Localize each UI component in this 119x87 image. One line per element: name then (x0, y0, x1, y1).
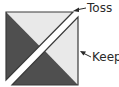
keep-arrow-icon (80, 51, 91, 57)
toss-label: Toss (87, 2, 112, 14)
toss-arrow-icon (73, 8, 86, 13)
keep-label: Keep (92, 51, 119, 63)
